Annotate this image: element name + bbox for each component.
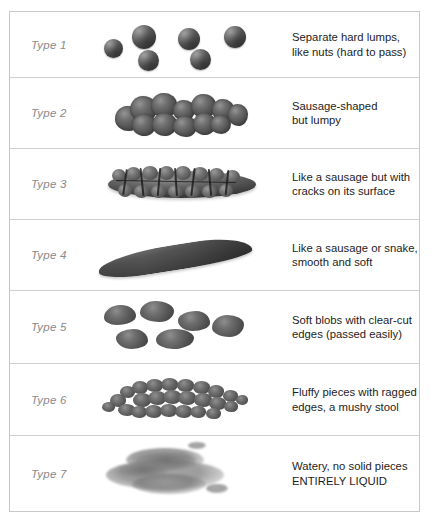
smooth-snake-body — [97, 233, 254, 282]
fluffy-piece — [236, 395, 248, 405]
table-row-type-2: Type 2 Sausage-shaped but lumpy — [10, 78, 419, 149]
stool-illustration-type-5 — [88, 291, 284, 363]
sausage-nub — [142, 166, 158, 180]
watery-puddle-core — [118, 464, 168, 478]
stool-illustration-type-3 — [88, 149, 284, 219]
hard-lump — [138, 50, 159, 71]
sausage-lump — [228, 104, 248, 126]
table-row-type-4: Type 4 Like a sausage or snake, smooth a… — [10, 220, 419, 291]
hard-lump — [132, 25, 156, 49]
watery-droplet — [188, 442, 206, 449]
soft-blob — [140, 301, 174, 322]
bristol-stool-chart: Type 1 Separate hard lumps, like nuts (h… — [9, 11, 420, 512]
sausage-nub — [209, 168, 224, 181]
table-row-type-5: Type 5 Soft blobs with clear-cut edges (… — [10, 291, 419, 364]
type-label-1: Type 1 — [10, 39, 88, 51]
description-type-5: Soft blobs with clear-cut edges (passed … — [284, 313, 419, 342]
fluffy-piece — [190, 406, 206, 418]
soft-blob — [156, 329, 194, 349]
stool-illustration-type-1 — [88, 12, 284, 77]
fluffy-piece — [102, 402, 115, 412]
fluffy-piece — [161, 378, 178, 391]
description-type-1: Separate hard lumps, like nuts (hard to … — [284, 30, 419, 59]
hard-lump — [190, 49, 211, 70]
stool-illustration-type-7 — [88, 436, 284, 511]
hard-lump — [178, 28, 200, 50]
type-label-5: Type 5 — [10, 321, 88, 333]
soft-blob — [178, 311, 210, 331]
stool-illustration-type-6 — [88, 364, 284, 435]
description-type-2: Sausage-shaped but lumpy — [284, 99, 419, 128]
description-type-6: Fluffy pieces with ragged edges, a mushy… — [284, 385, 419, 414]
type-label-2: Type 2 — [10, 107, 88, 119]
sausage-nub — [175, 166, 191, 180]
table-row-type-1: Type 1 Separate hard lumps, like nuts (h… — [10, 12, 419, 78]
hard-lump — [224, 26, 246, 48]
type-label-4: Type 4 — [10, 249, 88, 261]
soft-blob — [116, 329, 148, 349]
type-label-7: Type 7 — [10, 468, 88, 480]
type-label-6: Type 6 — [10, 394, 88, 406]
table-row-type-6: Type 6 — [10, 364, 419, 436]
fluffy-piece — [206, 408, 221, 419]
description-type-7: Watery, no solid pieces ENTIRELY LIQUID — [284, 459, 419, 488]
soft-blob — [104, 305, 136, 325]
hard-lump — [104, 39, 123, 58]
table-row-type-7: Type 7 Watery, no solid pieces ENTIRELY … — [10, 436, 419, 511]
watery-droplet — [206, 484, 228, 493]
soft-blob — [212, 315, 244, 337]
stool-illustration-type-4 — [88, 220, 284, 290]
description-type-3: Like a sausage but with cracks on its su… — [284, 170, 419, 199]
stool-illustration-type-2 — [88, 78, 284, 148]
table-row-type-3: Type 3 — [10, 149, 419, 220]
description-type-4: Like a sausage or snake, smooth and soft — [284, 241, 419, 270]
type-label-3: Type 3 — [10, 178, 88, 190]
sausage-nub — [159, 166, 174, 180]
